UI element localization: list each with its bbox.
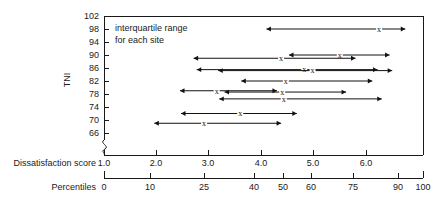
percentile-tick-label: 100: [415, 182, 430, 192]
x-axis-secondary: [104, 171, 423, 178]
arrow-head-left-icon: [218, 68, 223, 73]
percentile-tick-label: 50: [278, 182, 288, 192]
y-tick-label: 90: [89, 50, 99, 60]
median-marker: x: [302, 65, 306, 74]
median-marker: x: [215, 87, 219, 96]
y-tick-label: 86: [89, 63, 99, 73]
x-tick-label: 3.0: [202, 158, 215, 168]
x-axis-secondary-title: Percentiles: [51, 182, 96, 192]
arrow-head-right-icon: [292, 111, 297, 116]
interquartile-range-row: x: [266, 25, 405, 34]
percentile-tick-label: 40: [249, 182, 259, 192]
x-tick-label: 6.0: [360, 158, 373, 168]
arrow-head-left-icon: [241, 79, 246, 84]
x-tick-label: 1.0: [98, 158, 111, 168]
chart-figure: 102 98 94 90 86 82 78 74 70 66 TNI inter…: [0, 0, 437, 201]
percentile-tick-label: 90: [393, 182, 403, 192]
y-tick-label: 82: [89, 76, 99, 86]
interquartile-range-row: x: [197, 65, 378, 74]
arrow-head-right-icon: [385, 53, 390, 58]
interquartile-range-row: x: [181, 109, 297, 118]
arrow-head-left-icon: [197, 67, 202, 72]
arrow-head-right-icon: [388, 68, 393, 73]
x-tick-label: 5.0: [307, 158, 320, 168]
y-tick-label: 78: [89, 89, 99, 99]
x-axis-secondary-tick-labels: 0 10 25 40 50 60 75 90 100: [101, 182, 430, 192]
arrow-head-right-icon: [373, 67, 378, 72]
y-tick-label: 98: [89, 24, 99, 34]
annotation-line-2: for each site: [115, 35, 164, 45]
percentile-tick-label: 60: [306, 182, 316, 192]
arrow-head-left-icon: [194, 56, 199, 61]
y-tick-label: 102: [84, 11, 99, 21]
percentile-tick-label: 10: [145, 182, 155, 192]
median-marker: x: [311, 66, 315, 75]
arrow-head-left-icon: [180, 88, 185, 93]
interquartile-range-row: x: [241, 77, 372, 86]
median-marker: x: [279, 54, 283, 63]
median-marker: x: [202, 119, 206, 128]
arrow-head-left-icon: [266, 27, 271, 32]
x-tick-label: 4.0: [255, 158, 268, 168]
annotation-line-1: interquartile range: [115, 23, 188, 33]
data-ranges-group: xxxxxxxxxxx: [154, 25, 405, 128]
y-tick-label: 66: [89, 128, 99, 138]
percentile-tick-label: 75: [348, 182, 358, 192]
arrow-head-right-icon: [351, 56, 356, 61]
arrow-head-left-icon: [289, 53, 294, 58]
y-axis-ticks: [104, 16, 109, 133]
arrow-head-right-icon: [368, 79, 373, 84]
arrow-head-right-icon: [277, 121, 282, 126]
x-axis-primary-tick-labels: 1.0 2.0 3.0 4.0 5.0 6.0: [98, 158, 373, 168]
y-tick-label: 70: [89, 115, 99, 125]
percentile-tick-label: 0: [101, 182, 106, 192]
arrow-head-right-icon: [342, 90, 347, 95]
y-tick-label: 94: [89, 37, 99, 47]
percentile-tick-label: 25: [199, 182, 209, 192]
arrow-head-left-icon: [154, 121, 159, 126]
arrow-head-left-icon: [181, 111, 186, 116]
chart-canvas: 102 98 94 90 86 82 78 74 70 66 TNI inter…: [0, 0, 437, 201]
x-axis-primary-title: Dissatisfaction score: [13, 158, 96, 168]
interquartile-range-row: x: [154, 119, 281, 128]
x-axis-primary: [104, 150, 423, 155]
arrow-head-right-icon: [401, 27, 406, 32]
arrow-head-left-icon: [219, 96, 224, 101]
annotation-interquartile-range: interquartile range for each site: [115, 23, 188, 45]
y-axis-title: TNI: [62, 73, 72, 88]
median-marker: x: [377, 25, 381, 34]
median-marker: x: [282, 95, 286, 104]
median-marker: x: [284, 77, 288, 86]
y-axis-tick-labels: 102 98 94 90 86 82 78 74 70 66: [84, 11, 99, 138]
median-marker: x: [238, 109, 242, 118]
arrow-head-right-icon: [377, 96, 382, 101]
x-tick-label: 2.0: [150, 158, 163, 168]
interquartile-range-row: x: [219, 95, 381, 104]
y-tick-label: 74: [89, 102, 99, 112]
